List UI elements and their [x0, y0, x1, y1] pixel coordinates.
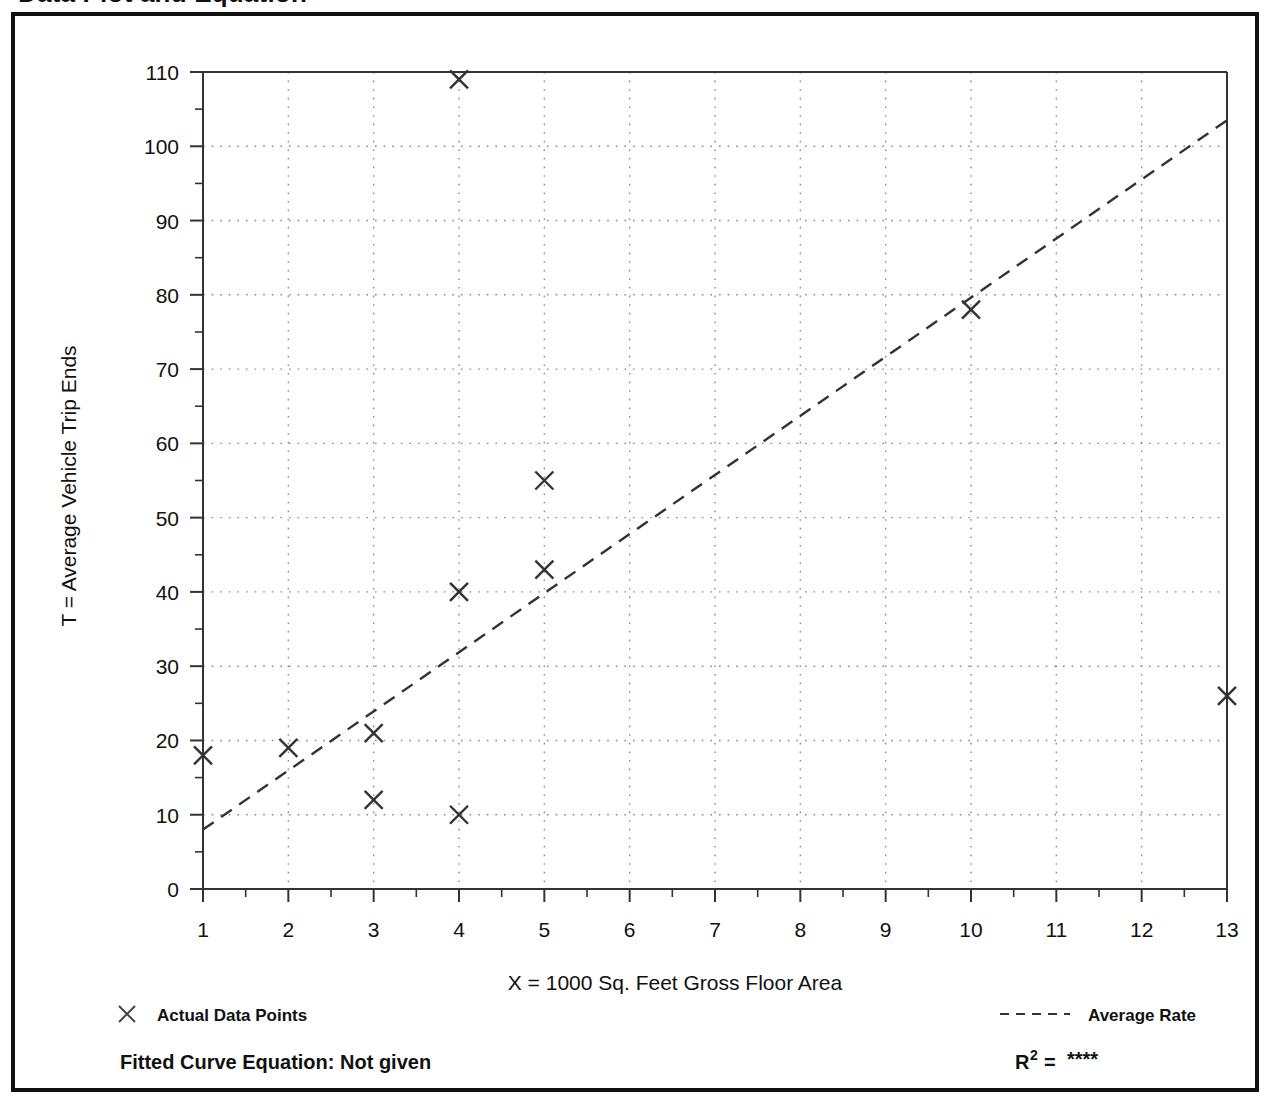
- r-squared-label: R: [1015, 1051, 1030, 1073]
- data-point-marker: [535, 472, 553, 490]
- y-tick-label: 10: [156, 804, 179, 827]
- x-tick-label: 3: [368, 918, 380, 941]
- r-squared-exponent: 2: [1030, 1047, 1038, 1063]
- y-tick-label: 70: [156, 358, 179, 381]
- x-tick-label: 13: [1215, 918, 1238, 941]
- x-marker-icon: [119, 1006, 135, 1022]
- x-tick-label: 2: [282, 918, 294, 941]
- data-point-marker: [279, 739, 297, 757]
- x-axis-title: X = 1000 Sq. Feet Gross Floor Area: [508, 971, 843, 994]
- y-tick-label: 90: [156, 210, 179, 233]
- y-axis-tick-labels: 0102030405060708090100110: [144, 61, 179, 901]
- x-tick-label: 8: [794, 918, 806, 941]
- legend-label-actual-data-points: Actual Data Points: [157, 1006, 307, 1025]
- average-rate-trendline: [203, 120, 1227, 829]
- r-squared-block: R 2 = ****: [1015, 1047, 1098, 1073]
- y-tick-label: 30: [156, 655, 179, 678]
- x-tick-label: 12: [1130, 918, 1153, 941]
- y-axis-title: T = Average Vehicle Trip Ends: [57, 345, 80, 626]
- fitted-curve-equation-label: Fitted Curve Equation: Not given: [120, 1051, 431, 1073]
- x-tick-label: 11: [1045, 918, 1067, 941]
- figure-frame: 0102030405060708090100110 12345678910111…: [11, 12, 1259, 1092]
- y-tick-label: 110: [146, 61, 179, 84]
- legend-item-actual-data-points: Actual Data Points: [119, 1006, 307, 1025]
- data-point-markers: [194, 70, 1236, 823]
- legend-label-average-rate: Average Rate: [1088, 1006, 1196, 1025]
- page-title: Data Plot and Equation: [18, 0, 307, 9]
- data-plot-chart: 0102030405060708090100110 12345678910111…: [15, 16, 1263, 1096]
- axis-ticks: [190, 72, 1227, 902]
- x-tick-label: 4: [453, 918, 465, 941]
- x-axis-tick-labels: 12345678910111213: [197, 918, 1239, 941]
- y-tick-label: 0: [167, 878, 179, 901]
- axes: [203, 72, 1227, 889]
- x-tick-label: 10: [959, 918, 982, 941]
- r-squared-value: ****: [1067, 1048, 1098, 1070]
- y-tick-label: 80: [156, 284, 179, 307]
- y-tick-label: 100: [144, 135, 179, 158]
- y-tick-label: 20: [156, 729, 179, 752]
- grid-lines: [203, 72, 1227, 889]
- r-squared-equals: =: [1044, 1051, 1056, 1073]
- x-tick-label: 6: [624, 918, 636, 941]
- data-point-marker: [365, 791, 383, 809]
- x-tick-label: 9: [880, 918, 892, 941]
- x-tick-label: 1: [197, 918, 209, 941]
- y-tick-label: 60: [156, 432, 179, 455]
- x-tick-label: 5: [538, 918, 550, 941]
- y-tick-label: 40: [156, 581, 179, 604]
- legend-item-average-rate: Average Rate: [1000, 1006, 1196, 1025]
- y-tick-label: 50: [156, 507, 179, 530]
- x-tick-label: 7: [709, 918, 721, 941]
- data-point-marker: [962, 301, 980, 319]
